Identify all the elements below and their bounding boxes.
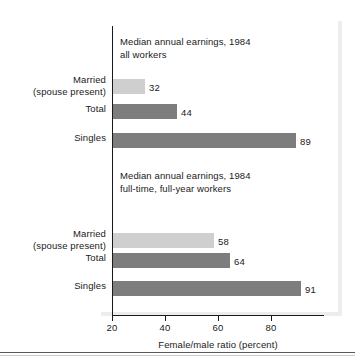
bar-value-label: 64 [234,256,245,267]
bar [113,133,296,148]
y-axis-line [112,26,113,316]
x-tick-mark [165,316,166,321]
bar [113,281,301,296]
category-label: Total [0,103,106,115]
x-tick-label: 40 [150,322,180,333]
footer-rule-secondary [0,355,355,356]
bar-value-label: 91 [305,284,316,295]
bar-value-label: 32 [149,82,160,93]
x-tick-mark [218,316,219,321]
bar [113,253,230,268]
x-tick-label: 80 [256,322,286,333]
category-label: Total [0,252,106,264]
category-label: Married (spouse present) [0,74,106,97]
x-axis-title: Female/male ratio (percent) [112,339,324,350]
x-tick-mark [271,316,272,321]
bar-chart: Median annual earnings, 1984 all workers… [0,0,355,364]
group-caption-full-time-workers: Median annual earnings, 1984 full-time, … [120,170,251,195]
category-label: Singles [0,132,106,144]
bar-value-label: 89 [300,136,311,147]
bar [113,104,177,119]
category-label: Singles [0,280,106,292]
bar-value-label: 58 [218,236,229,247]
x-tick-label: 20 [97,322,127,333]
category-label: Married (spouse present) [0,228,106,251]
x-tick-label: 60 [203,322,233,333]
bar [113,79,145,94]
bar [113,233,214,248]
x-tick-mark [112,316,113,321]
footer-rule [0,352,355,353]
group-caption-all-workers: Median annual earnings, 1984 all workers [120,36,251,61]
bar-value-label: 44 [181,107,192,118]
